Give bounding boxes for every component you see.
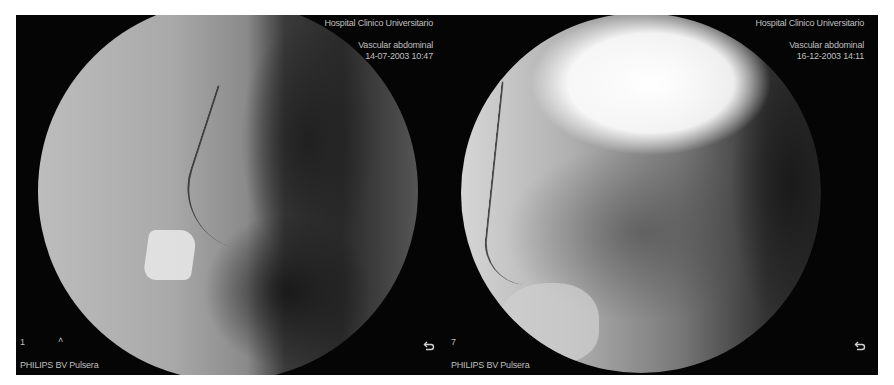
return-arrow-icon: [854, 340, 866, 352]
hospital-label: Hospital Clinico Universitario: [755, 18, 864, 29]
fluoroscopy-image-right: [461, 15, 821, 373]
orientation-marker: ˄: [58, 335, 63, 346]
acquisition-datetime: 14-07-2003 10:47: [365, 51, 433, 62]
acquisition-datetime: 16-12-2003 14:11: [797, 51, 864, 62]
return-arrow-icon: [423, 340, 435, 352]
fluoroscopy-panel-left: Hospital Clinico Universitario Vascular …: [16, 15, 447, 375]
contrast-region: [142, 230, 197, 280]
frame-number: 1: [20, 337, 25, 348]
study-label: Vascular abdominal: [789, 40, 864, 51]
device-label: PHILIPS BV Pulsera: [451, 360, 529, 371]
frame-number: 7: [451, 337, 456, 348]
fluoroscopy-panel-right: Hospital Clinico Universitario Vascular …: [447, 15, 878, 375]
catheter-shadow: [171, 85, 276, 247]
catheter-shadow: [481, 81, 544, 284]
fluoroscopy-image-left: [38, 15, 418, 375]
hospital-label: Hospital Clinico Universitario: [324, 18, 433, 29]
device-label: PHILIPS BV Pulsera: [20, 360, 98, 371]
study-label: Vascular abdominal: [358, 40, 433, 51]
contrast-region: [499, 283, 599, 363]
fluoroscopy-comparison-strip: Hospital Clinico Universitario Vascular …: [16, 15, 878, 375]
